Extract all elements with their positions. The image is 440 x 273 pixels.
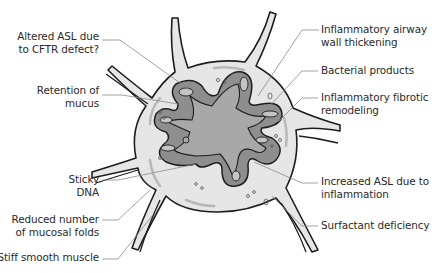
label-line: wall thickening <box>321 36 427 49</box>
label-line: inflammation <box>321 188 429 201</box>
label-reduced-folds: Reduced number of mucosal folds <box>12 213 99 238</box>
label-line: Inflammatory airway <box>321 23 427 36</box>
label-line: to CFTR defect? <box>17 43 99 56</box>
label-surfactant-deficiency: Surfactant deficiency <box>321 219 429 232</box>
label-line: Altered ASL due <box>17 30 99 43</box>
label-line: Stiff smooth muscle <box>0 251 99 264</box>
label-line: DNA <box>69 186 99 199</box>
label-line: Reduced number <box>12 213 99 226</box>
label-line: Increased ASL due to <box>321 175 429 188</box>
label-line: Retention of <box>37 84 99 97</box>
label-retention-mucus: Retention of mucus <box>37 84 99 109</box>
label-line: Surfactant deficiency <box>321 219 429 232</box>
label-line: Inflammatory fibrotic <box>321 91 428 104</box>
label-sticky-dna: Sticky DNA <box>69 173 99 198</box>
label-inflam-thickening: Inflammatory airway wall thickening <box>321 23 427 48</box>
label-altered-asl: Altered ASL due to CFTR defect? <box>17 30 99 55</box>
label-line: Sticky <box>69 173 99 186</box>
label-line: Bacterial products <box>321 64 414 77</box>
label-line: mucus <box>37 97 99 110</box>
label-stiff-muscle: Stiff smooth muscle <box>0 251 99 264</box>
label-increased-asl: Increased ASL due to inflammation <box>321 175 429 200</box>
label-fibrotic-remodeling: Inflammatory fibrotic remodeling <box>321 91 428 116</box>
label-line: remodeling <box>321 104 428 117</box>
label-line: of mucosal folds <box>12 226 99 239</box>
label-bacterial-products: Bacterial products <box>321 64 414 77</box>
